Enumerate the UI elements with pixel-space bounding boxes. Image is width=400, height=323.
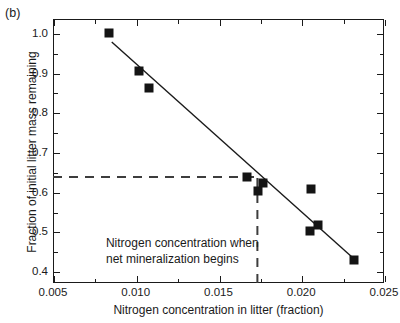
figure-panel-b: (b) 0.0050.0100.0150.0200.025 0.40.50.60… <box>0 0 400 323</box>
axis-tick <box>54 276 55 282</box>
axis-tick <box>54 213 58 214</box>
x-tick-label: 0.025 <box>370 286 399 298</box>
axis-tick <box>344 20 345 24</box>
axis-tick <box>95 20 96 24</box>
axis-tick <box>54 272 60 273</box>
x-tick-label: 0.015 <box>204 286 233 298</box>
axis-tick <box>54 20 55 26</box>
axis-tick <box>54 193 60 194</box>
mineralization-annotation: Nitrogen concentration when net minerali… <box>106 235 259 267</box>
axis-tick <box>380 252 384 253</box>
axis-tick <box>380 93 384 94</box>
axis-tick <box>54 133 58 134</box>
axis-tick <box>377 272 383 273</box>
x-tick-label: 0.005 <box>39 286 68 298</box>
axis-tick <box>377 34 383 35</box>
x-tick-label: 0.010 <box>121 286 150 298</box>
axis-tick <box>54 252 58 253</box>
axis-tick <box>54 34 60 35</box>
axis-tick <box>54 93 58 94</box>
axis-tick <box>377 153 383 154</box>
axis-tick <box>377 232 383 233</box>
axis-tick <box>137 276 138 282</box>
axis-tick <box>220 276 221 282</box>
axis-tick <box>95 279 96 283</box>
axis-tick <box>178 279 179 283</box>
axis-tick <box>261 20 262 24</box>
axis-tick <box>380 173 384 174</box>
axis-tick <box>54 74 60 75</box>
axis-tick <box>54 113 60 114</box>
axis-tick <box>302 20 303 26</box>
axis-tick <box>385 276 386 282</box>
axis-tick <box>377 74 383 75</box>
axis-tick <box>380 54 384 55</box>
annotation-line-1: Nitrogen concentration when <box>106 235 259 251</box>
x-axis-title: Nitrogen concentration in litter (fracti… <box>53 303 384 317</box>
axis-tick <box>377 193 383 194</box>
x-tick-label: 0.020 <box>287 286 316 298</box>
axis-tick <box>54 153 60 154</box>
axis-tick <box>54 173 58 174</box>
axis-tick <box>54 54 58 55</box>
axis-tick <box>380 213 384 214</box>
axis-tick <box>220 20 221 26</box>
axis-tick <box>54 232 60 233</box>
panel-label: (b) <box>5 6 21 20</box>
axis-tick <box>302 276 303 282</box>
annotation-line-2: net mineralization begins <box>106 251 259 267</box>
axis-tick <box>137 20 138 26</box>
axis-tick <box>344 279 345 283</box>
y-axis-title: Fraction of initial litter mass remainin… <box>25 27 39 277</box>
axis-tick <box>385 20 386 26</box>
axis-tick <box>178 20 179 24</box>
axis-tick <box>380 133 384 134</box>
axis-tick <box>261 279 262 283</box>
axis-tick <box>377 113 383 114</box>
